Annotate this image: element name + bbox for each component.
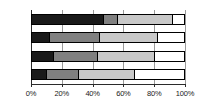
x-tick-label: 100% bbox=[176, 89, 194, 98]
x-tick-label: 40% bbox=[85, 89, 99, 98]
bar-segment-1[interactable] bbox=[32, 52, 53, 61]
bar-segment-1[interactable] bbox=[32, 33, 49, 42]
bar-segment-4[interactable] bbox=[134, 70, 184, 79]
bar-row[interactable]: II (38) bbox=[31, 32, 185, 43]
bar-segment-2[interactable] bbox=[103, 15, 117, 24]
bar-segment-4[interactable] bbox=[157, 33, 184, 42]
x-tick bbox=[31, 84, 32, 87]
bar-row[interactable]: III (58) bbox=[31, 51, 185, 62]
bar-segment-4[interactable] bbox=[154, 52, 184, 61]
bar-segment-1[interactable] bbox=[32, 15, 103, 24]
plot-area: I (25)II (38)III (58)IV (50) bbox=[31, 10, 185, 84]
x-tick-label: 80% bbox=[147, 89, 161, 98]
x-tick-label: 60% bbox=[116, 89, 130, 98]
x-axis-line bbox=[31, 84, 185, 85]
bar-segment-2[interactable] bbox=[49, 33, 99, 42]
bar-segment-3[interactable] bbox=[97, 52, 153, 61]
x-tick-label: 0% bbox=[26, 89, 36, 98]
stacked-bar-chart: I (25)II (38)III (58)IV (50) 0%20%40%60%… bbox=[0, 0, 198, 108]
bar-row[interactable]: I (25) bbox=[31, 14, 185, 25]
bar-segment-1[interactable] bbox=[32, 70, 46, 79]
gridline-100pct bbox=[185, 10, 186, 84]
x-tick-label: 20% bbox=[55, 89, 69, 98]
x-tick bbox=[93, 84, 94, 87]
bar-segment-2[interactable] bbox=[46, 70, 78, 79]
bar-segment-3[interactable] bbox=[78, 70, 134, 79]
bar-rows: I (25)II (38)III (58)IV (50) bbox=[31, 10, 185, 84]
bar-segment-3[interactable] bbox=[117, 15, 172, 24]
bar-row[interactable]: IV (50) bbox=[31, 69, 185, 80]
x-tick bbox=[62, 84, 63, 87]
bar-segment-4[interactable] bbox=[172, 15, 184, 24]
x-tick bbox=[185, 84, 186, 87]
bar-segment-2[interactable] bbox=[53, 52, 97, 61]
x-tick bbox=[123, 84, 124, 87]
x-tick bbox=[154, 84, 155, 87]
bar-segment-3[interactable] bbox=[99, 33, 157, 42]
